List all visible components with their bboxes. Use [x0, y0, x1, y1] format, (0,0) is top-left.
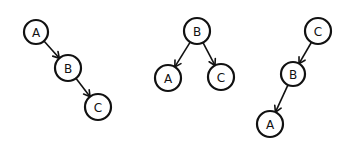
tree-3-edge-b-to-a — [275, 85, 288, 112]
tree-1-node-a: A — [24, 20, 48, 44]
tree-3-edge-c-to-b — [299, 42, 311, 63]
nodes-layer: A B C B A C C B — [24, 18, 331, 137]
tree-1-edge-a-to-b — [44, 41, 59, 58]
svg-text:A: A — [266, 118, 275, 132]
svg-text:B: B — [193, 25, 201, 39]
tree-1-edge-b-to-c — [76, 78, 90, 96]
tree-2-node-b: B — [184, 18, 210, 44]
tree-3-node-b: B — [281, 62, 305, 86]
tree-2-edge-b-to-c — [203, 43, 215, 66]
tree-2-node-a: A — [155, 65, 181, 91]
tree-1-node-b: B — [55, 55, 81, 81]
svg-text:C: C — [314, 25, 322, 39]
tree-3-node-c: C — [305, 18, 331, 44]
tree-2-edge-b-to-a — [175, 42, 190, 67]
svg-text:C: C — [94, 101, 102, 115]
edge-line — [175, 42, 190, 67]
svg-text:A: A — [32, 26, 41, 40]
edge-line — [44, 41, 59, 58]
tree-3-node-a: A — [257, 111, 283, 137]
tree-2-node-c: C — [208, 64, 234, 90]
svg-text:A: A — [164, 72, 173, 86]
svg-text:B: B — [289, 68, 297, 82]
tree-1-node-c: C — [85, 94, 111, 120]
svg-text:B: B — [64, 62, 72, 76]
svg-text:C: C — [217, 71, 225, 85]
tree-diagram-canvas: A B C B A C C B — [0, 0, 353, 146]
